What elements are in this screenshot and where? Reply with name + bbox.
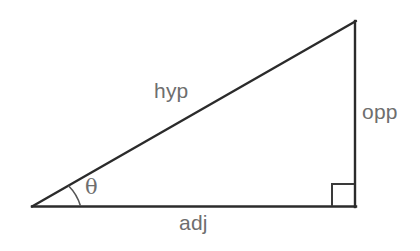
adjacent-label: adj: [179, 212, 208, 233]
right-triangle-diagram: hyp opp adj θ: [0, 0, 420, 251]
opposite-label: opp: [362, 101, 398, 122]
angle-arc-icon: [69, 186, 81, 206]
hypotenuse-line: [32, 21, 356, 207]
triangle-graphic: [0, 0, 420, 251]
theta-angle-label: θ: [85, 177, 98, 198]
hypotenuse-label: hyp: [154, 80, 188, 101]
right-angle-square-icon: [332, 184, 354, 206]
